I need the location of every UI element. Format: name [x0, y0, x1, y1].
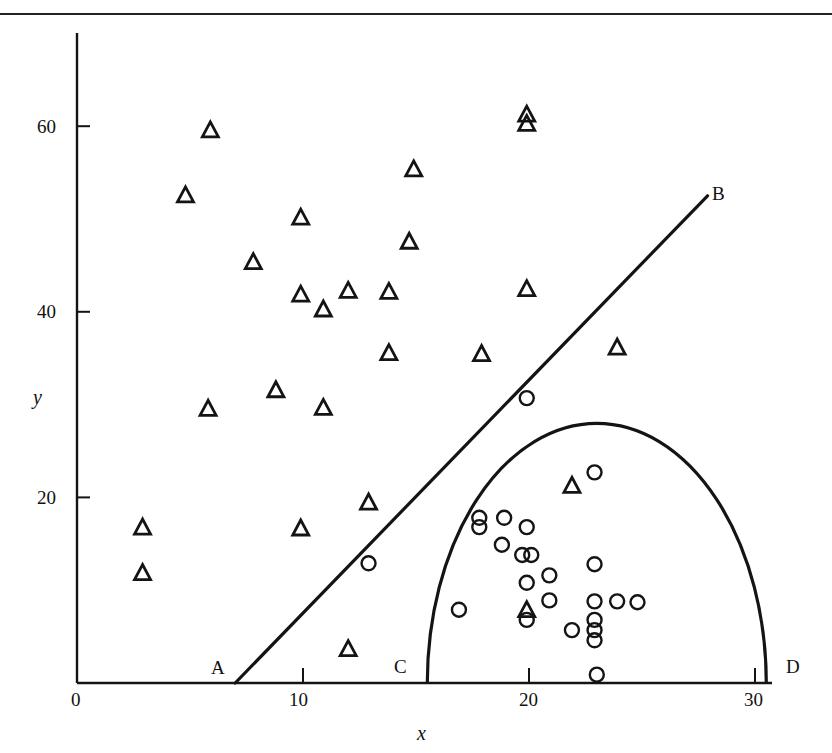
circle-marker — [452, 603, 466, 617]
circle-marker — [588, 594, 602, 608]
x-axis-title: x — [417, 723, 426, 743]
semicircle-CD — [427, 423, 766, 683]
circle-marker — [588, 557, 602, 571]
markers — [135, 106, 645, 682]
triangle-marker — [202, 122, 218, 137]
circle-marker — [362, 556, 376, 570]
triangle-marker — [361, 494, 377, 509]
circle-marker — [542, 568, 556, 582]
triangle-marker — [340, 282, 356, 297]
label-C: C — [394, 657, 407, 676]
label-A: A — [211, 658, 225, 677]
y-tick-label-20: 20 — [16, 488, 56, 507]
axes — [77, 33, 772, 683]
x-tick-label-10: 10 — [289, 690, 308, 709]
triangle-marker — [315, 301, 331, 316]
triangle-marker — [406, 161, 422, 176]
circle-marker — [520, 391, 534, 405]
circle-marker — [497, 511, 511, 525]
triangle-marker — [177, 187, 193, 202]
label-B: B — [712, 184, 725, 203]
triangle-marker — [293, 209, 309, 224]
circle-marker — [588, 465, 602, 479]
label-D: D — [786, 657, 800, 676]
y-tick-label-60: 60 — [16, 117, 56, 136]
triangle-marker — [519, 281, 535, 296]
x-tick-label-20: 20 — [519, 690, 538, 709]
circle-marker — [590, 668, 604, 682]
circle-marker — [588, 633, 602, 647]
triangle-marker — [340, 641, 356, 656]
circle-marker — [472, 520, 486, 534]
triangle-marker — [245, 254, 261, 269]
circle-marker — [565, 623, 579, 637]
y-axis-title: y — [33, 387, 42, 407]
circle-marker — [610, 594, 624, 608]
triangle-marker — [401, 233, 417, 248]
x-tick-label-30: 30 — [744, 690, 763, 709]
triangle-marker — [381, 345, 397, 360]
circle-marker — [520, 520, 534, 534]
circle-marker — [495, 538, 509, 552]
triangle-marker — [135, 565, 151, 580]
triangle-marker — [564, 477, 580, 492]
circle-marker — [542, 593, 556, 607]
x-tick-label-0: 0 — [71, 690, 81, 709]
triangle-marker — [315, 399, 331, 414]
triangle-marker — [609, 339, 625, 354]
triangle-marker — [200, 400, 216, 415]
circle-marker — [520, 613, 534, 627]
triangle-marker — [293, 286, 309, 301]
circle-marker — [520, 576, 534, 590]
triangle-marker — [381, 283, 397, 298]
annotations — [235, 196, 766, 683]
y-tick-label-40: 40 — [16, 302, 56, 321]
scatter-plot — [0, 0, 832, 753]
triangle-marker — [135, 519, 151, 534]
triangle-marker — [293, 520, 309, 535]
triangle-marker — [474, 346, 490, 361]
triangle-marker — [268, 382, 284, 397]
circle-marker — [630, 595, 644, 609]
circle-marker — [524, 548, 538, 562]
